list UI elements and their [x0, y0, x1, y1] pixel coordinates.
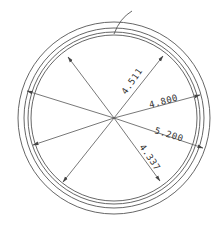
cross-section-drawing: 4.5114.8005.2004.337	[0, 0, 220, 226]
radial-upper-left-line	[68, 57, 114, 118]
radial-lower-left-line	[63, 118, 114, 182]
radial-left-lower-line	[33, 118, 114, 145]
radial-lines	[27, 56, 203, 182]
drawing-canvas: 4.5114.8005.2004.337	[0, 0, 220, 226]
dim-lower-right-line	[114, 118, 160, 181]
dim-right-upper-label: 4.800	[148, 93, 179, 110]
radial-left-upper-line	[27, 91, 114, 118]
dim-right-lower-label: 5.200	[153, 125, 184, 143]
dimension-labels: 4.5114.8005.2004.337	[119, 66, 184, 172]
dim-upper-right-label: 4.511	[119, 66, 144, 96]
